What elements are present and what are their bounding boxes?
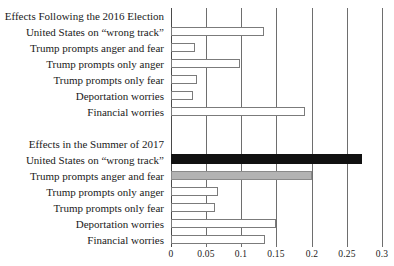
category-labels: Effects Following the 2016 Election Unit…: [0, 8, 168, 248]
category-label: United States on “wrong track”: [0, 24, 168, 40]
horizontal-bar-chart: Effects Following the 2016 Election Unit…: [0, 0, 394, 266]
bar: [171, 171, 312, 180]
panel-gap: [171, 120, 383, 136]
bar: [171, 107, 305, 116]
panel-title-2: Effects in the Summer of 2017: [0, 136, 168, 152]
panel-title-1: Effects Following the 2016 Election: [0, 8, 168, 24]
bar-row: [171, 72, 383, 88]
category-label: Deportation worries: [0, 88, 168, 104]
bar-row: [171, 152, 383, 168]
bar-row: [171, 232, 383, 248]
bar: [171, 154, 362, 164]
bar-row: [171, 56, 383, 72]
section-header-row: [171, 136, 383, 152]
bar-row: [171, 24, 383, 40]
section-header-row: [171, 8, 383, 24]
category-label: Trump prompts only anger: [0, 184, 168, 200]
plot-area: [171, 8, 383, 247]
x-tick-label: 0.2: [306, 249, 318, 259]
bar-row: [171, 216, 383, 232]
x-tick-label: 0.1: [235, 249, 247, 259]
x-tick-label: 0.3: [376, 249, 388, 259]
category-label: Trump prompts anger and fear: [0, 40, 168, 56]
x-tick-label: 0: [169, 249, 174, 259]
category-label: Trump prompts only fear: [0, 200, 168, 216]
x-axis-ticks: 0 0.05 0.1 0.15 0.2 0.25 0.3: [171, 249, 383, 263]
bar: [171, 91, 193, 100]
bar-row: [171, 88, 383, 104]
bar: [171, 187, 218, 196]
bar-row: [171, 104, 383, 120]
category-label: Deportation worries: [0, 216, 168, 232]
x-tick-label: 0.15: [267, 249, 284, 259]
x-tick-label: 0.05: [197, 249, 214, 259]
category-label: Trump prompts anger and fear: [0, 168, 168, 184]
bar: [171, 75, 197, 84]
bar: [171, 27, 264, 36]
bar-row: [171, 40, 383, 56]
bar-row: [171, 184, 383, 200]
category-label: Financial worries: [0, 104, 168, 120]
x-tick-label: 0.25: [338, 249, 355, 259]
category-label: United States on “wrong track”: [0, 152, 168, 168]
bar: [171, 59, 240, 68]
panel-gap: [0, 120, 168, 136]
bar: [171, 235, 265, 244]
bar: [171, 219, 276, 228]
bar: [171, 203, 215, 212]
category-label: Trump prompts only fear: [0, 72, 168, 88]
category-label: Trump prompts only anger: [0, 56, 168, 72]
bar: [171, 43, 195, 52]
bar-row: [171, 168, 383, 184]
category-label: Financial worries: [0, 232, 168, 248]
bar-rows: [171, 8, 383, 248]
bar-row: [171, 200, 383, 216]
